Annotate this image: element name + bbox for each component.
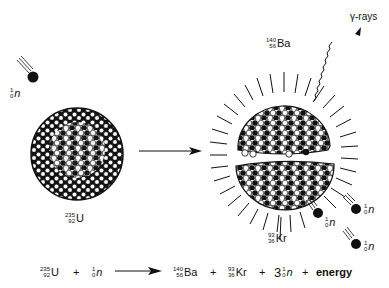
equation-three-neutrons: 3 10 n <box>274 262 293 282</box>
krypton-fragment <box>236 161 334 209</box>
outgoing-neutron-3 <box>343 227 361 249</box>
barium-fragment <box>238 106 330 157</box>
equation-plus-1: + <box>73 262 79 282</box>
energy-burst-lines <box>210 72 358 240</box>
equation-uranium: 23592 U <box>40 262 59 282</box>
equation-krypton: 9336 Kr <box>228 262 247 282</box>
incoming-neutron <box>17 56 39 83</box>
equation-energy: energy <box>316 262 352 282</box>
fission-equation: 23592 U + 10 n 14056 Ba + 9336 Kr + 3 10… <box>0 262 389 282</box>
gamma-rays-label: γ-rays <box>350 12 377 22</box>
outgoing-neutron-2-label: 10 n <box>364 203 374 215</box>
diagram-graphics <box>0 0 389 288</box>
outgoing-neutron-1-label: 10 n <box>325 216 335 228</box>
outgoing-neutron-3-label: 10 n <box>364 240 374 252</box>
reaction-arrow <box>139 147 202 155</box>
incoming-neutron-label: 10 n <box>10 87 20 99</box>
uranium-nucleus <box>31 108 123 200</box>
krypton-label: 9336 Kr <box>268 232 287 244</box>
uranium-label: 23592 U <box>65 212 84 224</box>
gamma-ray <box>313 27 361 102</box>
barium-label: 14056 Ba <box>266 37 290 49</box>
equation-neutron: 10 n <box>92 262 102 282</box>
equation-barium: 14056 Ba <box>173 262 197 282</box>
equation-plus-3: + <box>259 262 265 282</box>
fission-diagram: 10 n 23592 U 14056 Ba γ-rays 9336 Kr 10 … <box>0 0 389 288</box>
outgoing-neutron-2 <box>343 193 361 214</box>
equation-plus-4: + <box>302 262 308 282</box>
equation-plus-2: + <box>210 262 216 282</box>
